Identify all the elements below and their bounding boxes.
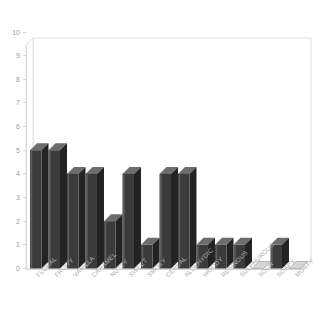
y-axis-tick-label: 3 (16, 194, 20, 201)
y-axis-ticks: 012345678910 (12, 29, 26, 273)
y-axis-tick-label: 2 (16, 218, 20, 225)
bar[interactable] (123, 167, 141, 269)
bar-side-face (97, 167, 104, 269)
y-axis-tick-label: 6 (16, 123, 20, 130)
bar-side-face (78, 167, 85, 269)
y-axis-tick-label: 1 (16, 241, 20, 248)
y-axis-tick-label: 4 (16, 170, 20, 177)
y-axis-tick-label: 9 (16, 52, 20, 59)
bar-highlight (49, 151, 51, 268)
bar[interactable] (49, 143, 67, 268)
bar-chart: 012345678910 FLORALFRUITYVANILLACARAMELN… (0, 0, 329, 332)
y-axis-tick-label: 0 (16, 265, 20, 272)
y-axis-tick-label: 10 (12, 29, 20, 36)
bar-highlight (179, 175, 181, 268)
bar-side-face (171, 167, 178, 269)
bar[interactable] (160, 167, 178, 269)
bar[interactable] (86, 167, 104, 269)
bar[interactable] (30, 143, 48, 268)
bar-highlight (31, 151, 33, 268)
y-axis-tick-label: 5 (16, 147, 20, 154)
bar[interactable] (178, 167, 196, 269)
bar-highlight (68, 175, 70, 268)
y-axis-tick-label: 8 (16, 76, 20, 83)
bar-side-face (189, 167, 196, 269)
bar[interactable] (67, 167, 85, 269)
bar-side-face (41, 143, 48, 268)
chart-canvas: 012345678910 FLORALFRUITYVANILLACARAMELN… (0, 0, 329, 332)
bar-side-face (60, 143, 67, 268)
y-axis-tick-label: 7 (16, 99, 20, 106)
bar-side-face (134, 167, 141, 269)
bar-highlight (123, 175, 125, 268)
bar-highlight (86, 175, 88, 268)
bar-highlight (160, 175, 162, 268)
